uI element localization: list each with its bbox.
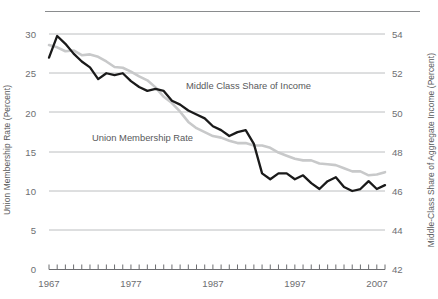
union-membership-rate-line xyxy=(49,45,385,175)
plot-area xyxy=(0,0,438,299)
x-axis-line-and-ticks xyxy=(49,265,385,270)
middle-class-share-line xyxy=(49,36,385,191)
x-axis-tick-marks xyxy=(49,265,385,270)
gridlines xyxy=(49,34,385,230)
chart-figure: Union Membership Rate (Percent) Middle-C… xyxy=(0,0,438,299)
